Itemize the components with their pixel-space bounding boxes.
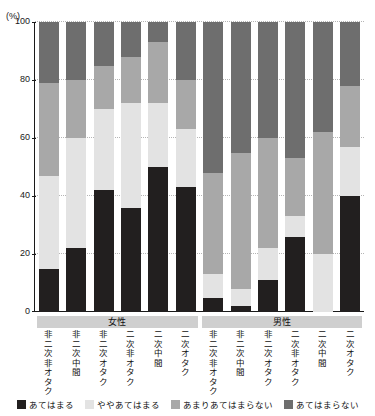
- bar-4-segment-ややあてはまる: [121, 103, 141, 207]
- bar-2-segment-あまりあてはまらない: [66, 80, 86, 138]
- y-tick-label-80: 80: [4, 75, 30, 84]
- y-tick-label-0: 0: [4, 307, 30, 316]
- category-label-3: 非二次オタク: [97, 330, 110, 387]
- bar-5-segment-あてはまらない: [148, 22, 168, 42]
- bar-11: [313, 22, 333, 312]
- bar-9-segment-ややあてはまる: [258, 248, 278, 280]
- bar-4: [121, 22, 141, 312]
- legend-label-2: ややあてはまる: [97, 398, 160, 410]
- bar-4-segment-あてはまる: [121, 208, 141, 312]
- bar-3-segment-あてはまる: [94, 190, 114, 312]
- bar-8-segment-あてはまる: [231, 306, 251, 312]
- bar-1-segment-ややあてはまる: [39, 176, 59, 269]
- legend-item-1[interactable]: あてはまる: [17, 398, 74, 410]
- bar-10: [285, 22, 305, 312]
- bar-3-segment-あまりあてはまらない: [94, 66, 114, 110]
- bar-5-segment-あてはまる: [148, 167, 168, 312]
- bar-12: [340, 22, 360, 312]
- legend-swatch-3: [171, 400, 180, 409]
- bar-10-segment-あまりあてはまらない: [285, 158, 305, 216]
- bar-5-segment-ややあてはまる: [148, 103, 168, 167]
- bar-7: [203, 22, 223, 312]
- category-label-12: 二次オタク: [344, 330, 357, 378]
- bar-10-segment-あてはまる: [285, 237, 305, 312]
- bar-8-segment-ややあてはまる: [231, 289, 251, 306]
- bar-8-segment-あてはまらない: [231, 22, 251, 153]
- bar-12-segment-ややあてはまる: [340, 147, 360, 196]
- bar-6-segment-あてはまる: [176, 187, 196, 312]
- bar-8: [231, 22, 251, 312]
- stacked-bars: [35, 22, 364, 312]
- legend-item-4[interactable]: あてはまらない: [284, 398, 359, 410]
- legend-item-3[interactable]: あまりあてはまらない: [171, 398, 273, 410]
- bar-3: [94, 22, 114, 312]
- bar-5-segment-あまりあてはまらない: [148, 42, 168, 103]
- chart-legend: あてはまるややあてはまるあまりあてはまらないあてはまらない: [0, 396, 375, 412]
- legend-label-4: あてはまらない: [296, 398, 359, 410]
- bar-6-segment-あてはまらない: [176, 22, 196, 80]
- bar-12-segment-あてはまる: [340, 196, 360, 312]
- bar-11-segment-あてはまらない: [313, 22, 333, 132]
- category-label-2: 非二次中間: [70, 330, 83, 378]
- legend-swatch-4: [284, 400, 293, 409]
- bar-6-segment-ややあてはまる: [176, 129, 196, 187]
- bar-9-segment-あまりあてはまらない: [258, 138, 278, 248]
- category-label-4: 二次非オタク: [124, 330, 137, 387]
- bar-1-segment-あてはまる: [39, 269, 59, 313]
- category-label-5: 二次中間: [152, 330, 165, 368]
- group-band-女性: 女性: [37, 316, 198, 328]
- category-label-11: 二次中間: [316, 330, 329, 368]
- bar-8-segment-あまりあてはまらない: [231, 153, 251, 289]
- y-tick-label-60: 60: [4, 133, 30, 142]
- category-label-7: 非二次非オタク: [207, 330, 220, 397]
- y-tick-label-100: 100: [4, 17, 30, 26]
- legend-item-2[interactable]: ややあてはまる: [85, 398, 160, 410]
- chart-plot-area: [34, 22, 364, 312]
- bar-2: [66, 22, 86, 312]
- bar-7-segment-ややあてはまる: [203, 274, 223, 297]
- bar-1-segment-あてはまらない: [39, 22, 59, 83]
- legend-swatch-1: [17, 400, 26, 409]
- bar-10-segment-ややあてはまる: [285, 216, 305, 236]
- category-label-8: 非二次中間: [234, 330, 247, 378]
- group-band-男性: 男性: [202, 316, 363, 328]
- category-label-1: 非二次非オタク: [42, 330, 55, 397]
- bar-6-segment-あまりあてはまらない: [176, 80, 196, 129]
- bar-4-segment-あてはまらない: [121, 22, 141, 57]
- bar-3-segment-ややあてはまる: [94, 109, 114, 190]
- bar-2-segment-あてはまらない: [66, 22, 86, 80]
- bar-11-segment-あまりあてはまらない: [313, 132, 333, 254]
- bar-2-segment-ややあてはまる: [66, 138, 86, 248]
- bar-7-segment-あてはまる: [203, 298, 223, 313]
- bar-7-segment-あまりあてはまらない: [203, 173, 223, 275]
- bar-5: [148, 22, 168, 312]
- bar-3-segment-あてはまらない: [94, 22, 114, 66]
- bar-7-segment-あてはまらない: [203, 22, 223, 173]
- bar-12-segment-あまりあてはまらない: [340, 86, 360, 147]
- bar-6: [176, 22, 196, 312]
- category-label-9: 非二次オタク: [262, 330, 275, 387]
- bar-10-segment-あてはまらない: [285, 22, 305, 158]
- legend-label-3: あまりあてはまらない: [183, 398, 273, 410]
- category-label-6: 二次オタク: [179, 330, 192, 378]
- bar-9-segment-あてはまらない: [258, 22, 278, 138]
- bar-1-segment-あまりあてはまらない: [39, 83, 59, 176]
- clipped-figure-title: [36, 0, 336, 4]
- bar-9-segment-あてはまる: [258, 280, 278, 312]
- y-tick-label-20: 20: [4, 249, 30, 258]
- bar-9: [258, 22, 278, 312]
- legend-label-1: あてはまる: [29, 398, 74, 410]
- bar-4-segment-あまりあてはまらない: [121, 57, 141, 103]
- bar-2-segment-あてはまる: [66, 248, 86, 312]
- y-tick-label-40: 40: [4, 191, 30, 200]
- bar-11-segment-ややあてはまる: [313, 254, 333, 312]
- bar-1: [39, 22, 59, 312]
- legend-swatch-2: [85, 400, 94, 409]
- category-label-10: 二次非オタク: [289, 330, 302, 387]
- bar-12-segment-あてはまらない: [340, 22, 360, 86]
